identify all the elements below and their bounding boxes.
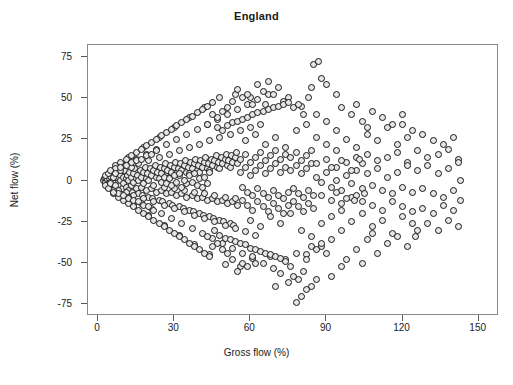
scatter-point: [399, 111, 406, 118]
scatter-point: [206, 253, 213, 260]
scatter-point: [163, 141, 170, 148]
scatter-point: [303, 286, 310, 293]
scatter-point: [323, 81, 330, 88]
scatter-points-layer: [88, 45, 497, 314]
scatter-point: [204, 121, 211, 128]
x-tick-label: 30: [168, 322, 179, 333]
x-tick-mark: [478, 315, 479, 321]
x-tick-label: 90: [320, 322, 331, 333]
scatter-point: [234, 86, 241, 93]
scatter-point: [348, 218, 355, 225]
scatter-point: [300, 268, 307, 275]
plot-area: [87, 44, 498, 315]
scatter-point: [166, 151, 173, 158]
scatter-point: [318, 240, 325, 247]
scatter-point: [450, 207, 457, 214]
scatter-point: [290, 273, 297, 280]
scatter-point: [209, 99, 216, 106]
scatter-point: [293, 127, 300, 134]
scatter-point: [272, 160, 279, 167]
scatter-point: [300, 194, 307, 201]
scatter-point: [181, 208, 188, 215]
scatter-point: [298, 170, 305, 177]
x-axis-label: Gross flow (%): [0, 347, 513, 358]
scatter-point: [364, 124, 371, 131]
scatter-point: [173, 136, 180, 143]
scatter-point: [229, 256, 236, 263]
scatter-point: [338, 263, 345, 270]
y-tick-label: -50: [12, 257, 72, 268]
scatter-point: [249, 101, 256, 108]
scatter-point: [313, 111, 320, 118]
scatter-point: [356, 156, 363, 163]
scatter-point: [315, 58, 322, 65]
scatter-point: [419, 205, 426, 212]
scatter-point: [257, 162, 264, 169]
scatter-point: [293, 299, 300, 306]
scatter-point: [323, 250, 330, 257]
scatter-point: [424, 220, 431, 227]
scatter-point: [389, 198, 396, 205]
scatter-point: [216, 94, 223, 101]
scatter-point: [239, 250, 246, 257]
scatter-point: [394, 141, 401, 148]
y-tick-label: 25: [12, 133, 72, 144]
scatter-point: [399, 121, 406, 128]
scatter-point: [353, 101, 360, 108]
scatter-point: [369, 108, 376, 115]
scatter-point: [384, 240, 391, 247]
scatter-point: [300, 111, 307, 118]
scatter-point: [343, 195, 350, 202]
scatter-point: [247, 124, 254, 131]
scatter-point: [455, 223, 462, 230]
scatter-point: [216, 134, 223, 141]
scatter-point: [171, 205, 178, 212]
scatter-point: [333, 147, 340, 154]
scatter-point: [457, 197, 464, 204]
scatter-point: [176, 147, 183, 154]
scatter-point: [374, 137, 381, 144]
scatter-point: [414, 167, 421, 174]
scatter-point: [280, 210, 287, 217]
scatter-point: [178, 220, 185, 227]
scatter-point: [305, 94, 312, 101]
scatter-point: [409, 127, 416, 134]
scatter-point: [399, 184, 406, 191]
scatter-point: [440, 202, 447, 209]
scatter-point: [394, 233, 401, 240]
scatter-point: [348, 180, 355, 187]
scatter-point: [318, 220, 325, 227]
scatter-point: [232, 225, 239, 232]
scatter-point: [353, 246, 360, 253]
scatter-point: [227, 131, 234, 138]
scatter-point: [257, 121, 264, 128]
scatter-point: [379, 217, 386, 224]
scatter-point: [361, 190, 368, 197]
scatter-point: [419, 131, 426, 138]
scatter-point: [359, 210, 366, 217]
scatter-point: [260, 88, 267, 95]
scatter-point: [351, 197, 358, 204]
y-tick-label: -75: [12, 298, 72, 309]
scatter-point: [181, 177, 188, 184]
scatter-point: [270, 91, 277, 98]
scatter-point: [293, 149, 300, 156]
scatter-point: [252, 260, 259, 267]
scatter-point: [310, 205, 317, 212]
scatter-point: [257, 223, 264, 230]
scatter-point: [234, 268, 241, 275]
scatter-point: [313, 246, 320, 253]
scatter-point: [303, 121, 310, 128]
scatter-point: [333, 177, 340, 184]
y-tick-label: 0: [12, 174, 72, 185]
scatter-point: [379, 114, 386, 121]
scatter-point: [183, 131, 190, 138]
scatter-point: [384, 174, 391, 181]
scatter-point: [353, 144, 360, 151]
scatter-point: [252, 131, 259, 138]
scatter-point: [409, 220, 416, 227]
x-tick-mark: [97, 315, 98, 321]
scatter-point: [328, 164, 335, 171]
scatter-point: [369, 182, 376, 189]
scatter-point: [450, 187, 457, 194]
